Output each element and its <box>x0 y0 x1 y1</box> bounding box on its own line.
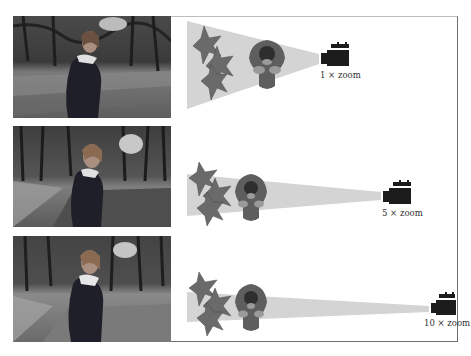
photo-woman-park-1x <box>13 16 171 118</box>
row-10x: 10 × zoom <box>13 236 458 342</box>
video-camera-icon <box>383 180 411 204</box>
zoom-label-1x: 1 × zoom <box>320 70 361 80</box>
zoom-label-5x: 5 × zoom <box>382 208 423 218</box>
diagram-1x: 1 × zoom <box>171 16 458 118</box>
diagram-10x: 10 × zoom <box>171 236 458 342</box>
video-camera-icon <box>321 42 349 66</box>
photo-woman-park-5x <box>13 126 171 227</box>
person-top-view-icon <box>235 284 267 331</box>
row-1x: 1 × zoom <box>13 16 458 118</box>
diagram-5x: 5 × zoom <box>171 126 458 227</box>
row-5x: 5 × zoom <box>13 126 458 227</box>
zoom-label-10x: 10 × zoom <box>424 318 470 328</box>
video-camera-icon <box>431 292 456 315</box>
person-top-view-icon <box>235 174 267 221</box>
photo-woman-park-10x <box>13 236 171 342</box>
